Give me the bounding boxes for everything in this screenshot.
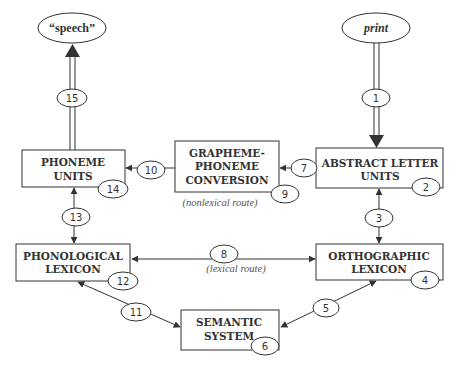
svg-text:8: 8 (221, 249, 227, 260)
node-label: UNITS (53, 170, 92, 182)
node-label: SYSTEM (204, 330, 254, 342)
svg-text:15: 15 (66, 93, 79, 104)
edge-number-15: 15 (57, 89, 87, 107)
arrowhead-icon (369, 135, 384, 148)
svg-text:13: 13 (70, 212, 83, 223)
node-label: PHONOLOGICAL (23, 250, 124, 262)
lexical-route-label: (lexical route) (206, 263, 266, 275)
edge-number-13: 13 (62, 208, 90, 226)
node-number-4: 4 (411, 271, 439, 289)
svg-text:6: 6 (262, 341, 268, 352)
svg-text:7: 7 (301, 163, 307, 174)
edge-number-7: 7 (291, 159, 317, 177)
print-label: print (363, 21, 389, 35)
svg-text:14: 14 (107, 184, 120, 195)
nonlexical-route-label: (nonlexical route) (182, 197, 258, 209)
print-input-node: print (342, 13, 410, 43)
node-label: GRAPHEME- (189, 147, 265, 159)
edge-number-10: 10 (137, 161, 165, 179)
reading-model-diagram: “speech” print PHONEME UNITS GRAPHEME- P… (0, 0, 457, 365)
grapheme-phoneme-conversion-node: GRAPHEME- PHONEME CONVERSION (175, 141, 279, 192)
node-label: LEXICON (45, 263, 101, 275)
svg-text:2: 2 (423, 182, 429, 193)
node-number-14: 14 (98, 180, 128, 198)
node-number-6: 6 (251, 337, 279, 355)
edge-number-11: 11 (121, 303, 151, 321)
node-number-12: 12 (108, 272, 138, 290)
svg-text:5: 5 (323, 303, 329, 314)
node-label: ORTHOGRAPHIC (328, 250, 430, 262)
node-label: CONVERSION (185, 174, 269, 186)
node-label: LEXICON (351, 263, 407, 275)
svg-text:10: 10 (145, 165, 158, 176)
edge-number-1: 1 (362, 89, 390, 107)
svg-text:4: 4 (422, 275, 428, 286)
svg-text:11: 11 (130, 307, 143, 318)
node-label: ABSTRACT LETTER (321, 157, 439, 169)
arrowhead-icon (65, 44, 80, 57)
svg-text:3: 3 (376, 213, 382, 224)
node-number-2: 2 (412, 178, 440, 196)
edge-number-8: 8 (210, 245, 238, 263)
svg-text:12: 12 (117, 276, 130, 287)
node-label: PHONEME (195, 160, 259, 172)
svg-text:9: 9 (282, 189, 288, 200)
speech-label: “speech” (49, 21, 95, 35)
svg-text:1: 1 (373, 93, 379, 104)
node-label: PHONEME (41, 156, 105, 168)
edge-number-5: 5 (313, 299, 339, 317)
edge-number-3: 3 (365, 209, 393, 227)
node-label: SEMANTIC (196, 316, 262, 328)
node-label: UNITS (360, 170, 399, 182)
node-number-9: 9 (271, 185, 299, 203)
speech-output-node: “speech” (38, 13, 106, 43)
